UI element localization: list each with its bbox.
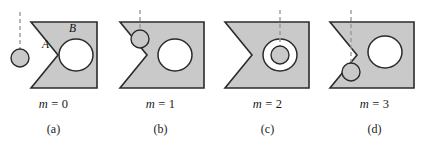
m-equals-b: = [158, 97, 165, 111]
small-circle [11, 49, 29, 67]
caption-label-a: (a) [0, 122, 107, 137]
m-equals-a: = [51, 97, 58, 111]
figure-container: A B m = 0 (a) m = 1 (b) [0, 0, 428, 144]
large-hole [158, 39, 192, 71]
caption-m-b: m = 1 [107, 97, 214, 112]
region-label-a: A [42, 38, 49, 50]
m-value-a: 0 [62, 97, 68, 111]
m-equals-d: = [372, 97, 379, 111]
m-symbol-d: m [360, 97, 369, 111]
panel-a-diagram [0, 0, 107, 96]
panel-b: m = 1 (b) [107, 0, 214, 144]
panel-c: m = 2 (c) [214, 0, 321, 144]
caption-m-c: m = 2 [214, 97, 321, 112]
m-value-c: 2 [276, 97, 282, 111]
large-hole [368, 36, 402, 68]
caption-m-d: m = 3 [321, 97, 428, 112]
m-equals-c: = [265, 97, 272, 111]
caption-m-a: m = 0 [0, 97, 107, 112]
caption-label-b: (b) [107, 122, 214, 137]
panel-b-diagram [107, 0, 214, 96]
caption-label-d: (d) [321, 122, 428, 137]
caption-label-c: (c) [214, 122, 321, 137]
small-circle [271, 46, 289, 64]
panel-d-diagram [321, 0, 428, 96]
panel-a: A B m = 0 (a) [0, 0, 107, 144]
m-symbol-a: m [39, 97, 48, 111]
panel-c-diagram [214, 0, 321, 96]
large-hole [59, 39, 93, 71]
small-circle [131, 30, 149, 48]
m-value-b: 1 [169, 97, 175, 111]
panel-d: m = 3 (d) [321, 0, 428, 144]
m-symbol-c: m [253, 97, 262, 111]
m-symbol-b: m [146, 97, 155, 111]
small-circle [342, 63, 360, 81]
region-label-b: B [69, 22, 76, 34]
m-value-d: 3 [383, 97, 389, 111]
